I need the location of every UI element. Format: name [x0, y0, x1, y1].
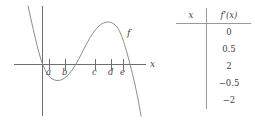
- cell-f-prime-value: −2: [207, 92, 252, 109]
- table-header-row: x f'(x): [176, 8, 251, 24]
- function-graph-svg: [0, 0, 172, 128]
- header-x: x: [176, 8, 207, 24]
- curve-f-label: f: [127, 28, 131, 38]
- cell-f-prime-value: 2: [207, 58, 252, 75]
- derivative-table: x f'(x) 0 0.5 2 −0.5: [176, 8, 251, 109]
- cell-x-value[interactable]: [176, 41, 207, 58]
- tick-label-a: a: [46, 68, 51, 77]
- tick-label-d: d: [108, 68, 113, 77]
- tick-label-b: b: [62, 68, 67, 77]
- table-header: x f'(x): [176, 8, 251, 24]
- x-axis-label: x: [150, 60, 155, 69]
- cell-f-prime-value: −0.5: [207, 75, 252, 92]
- tick-label-e: e: [120, 68, 125, 77]
- table-row: −2: [176, 92, 251, 109]
- cell-f-prime-value: 0: [207, 24, 252, 42]
- cell-f-prime-value: 0.5: [207, 41, 252, 58]
- table-row: 0.5: [176, 41, 251, 58]
- curve-f: [28, 6, 141, 116]
- cell-x-value[interactable]: [176, 58, 207, 75]
- figure-root: a b c d e x f x f'(x) 0: [0, 0, 255, 128]
- function-graph-panel: a b c d e x f: [0, 0, 172, 128]
- cell-x-value[interactable]: [176, 75, 207, 92]
- table-row: 2: [176, 58, 251, 75]
- table-body: 0 0.5 2 −0.5 −2: [176, 24, 251, 110]
- tick-label-c: c: [92, 68, 97, 77]
- table-row: 0: [176, 24, 251, 42]
- derivative-table-panel: x f'(x) 0 0.5 2 −0.5: [176, 8, 255, 124]
- table-row: −0.5: [176, 75, 251, 92]
- header-f-prime: f'(x): [207, 8, 252, 24]
- cell-x-value[interactable]: [176, 92, 207, 109]
- cell-x-value[interactable]: [176, 24, 207, 42]
